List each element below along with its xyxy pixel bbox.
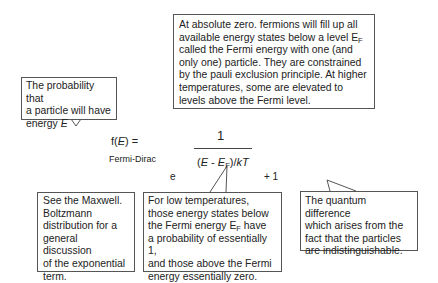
formula-lhs: f(E) =	[111, 135, 138, 147]
low-temp-line-2: those energy states below	[148, 208, 277, 221]
quantum-line-4: are indistinguishable.	[305, 245, 413, 258]
absolute-zero-line-7: levels above the Fermi level.	[179, 95, 369, 108]
low-temp-line-1: For low temperatures,	[148, 195, 277, 208]
callout-quantum: The quantum difference which arises from…	[300, 191, 418, 251]
absolute-zero-line-1: At absolute zero. fermions will fill up …	[179, 19, 369, 32]
formula-label: Fermi-Dirac	[109, 154, 156, 164]
absolute-zero-line-3: called the Fermi energy with one (and	[179, 44, 369, 57]
low-temp-line-3: the Fermi energy EF have	[148, 220, 277, 233]
low-temp-line-4: a probability of essentially 1,	[148, 233, 277, 258]
probability-line-3: energy E	[26, 118, 112, 131]
low-temp-line-5: and those above the Fermi	[148, 258, 277, 271]
formula-numerator: 1	[217, 128, 224, 143]
formula-exponent: (E - EF)/kT	[197, 156, 249, 168]
maxwell-line-4: general discussion	[43, 233, 129, 258]
probability-line-2: a particle will have	[26, 105, 112, 118]
maxwell-line-1: See the Maxwell.	[43, 195, 129, 208]
maxwell-line-2: Boltzmann	[43, 208, 129, 221]
absolute-zero-line-5: by the pauli exclusion principle. At hig…	[179, 69, 369, 82]
quantum-line-1: The quantum difference	[305, 195, 413, 220]
absolute-zero-line-4: only one) particle. They are constrained	[179, 57, 369, 70]
callout-probability: The probability that a particle will hav…	[21, 77, 117, 120]
absolute-zero-line-2: available energy states below a level EF	[179, 32, 369, 45]
callout-low-temperature: For low temperatures, those energy state…	[143, 192, 282, 272]
absolute-zero-line-6: temperatures, some are elevated to	[179, 82, 369, 95]
quantum-line-2: which arises from the	[305, 220, 413, 233]
fraction-bar	[194, 148, 252, 149]
quantum-line-3: fact that the particles	[305, 233, 413, 246]
formula-plus-one: + 1	[264, 171, 278, 182]
callout-maxwell: See the Maxwell. Boltzmann distribution …	[37, 192, 135, 272]
low-temp-line-6: energy essentially zero.	[148, 271, 277, 283]
maxwell-line-5: of the exponential	[43, 258, 129, 271]
probability-line-1: The probability that	[26, 80, 112, 105]
maxwell-line-3: distribution for a	[43, 220, 129, 233]
maxwell-line-6: term.	[43, 271, 129, 283]
callout-absolute-zero: At absolute zero. fermions will fill up …	[173, 14, 375, 109]
formula-base-e: e	[170, 171, 176, 182]
